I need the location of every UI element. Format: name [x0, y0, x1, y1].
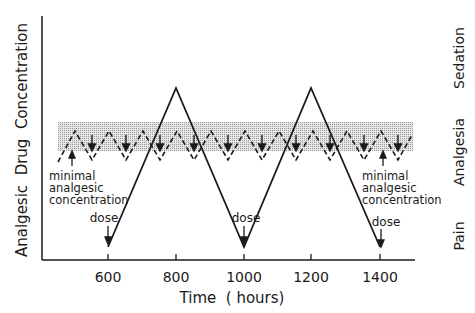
mac-label-left-3: concentration	[49, 193, 129, 207]
chart: 600 800 1000 1200 1400 Time ( hours) Ana…	[0, 0, 475, 313]
dose-arrows	[105, 226, 384, 247]
y-axis-title: Analgesic Drug Concentration	[13, 23, 31, 257]
tick-label-1200: 1200	[293, 269, 329, 285]
tick-label-600: 600	[95, 269, 122, 285]
dose-label-600: dose	[90, 211, 119, 225]
dose-label-1000: dose	[232, 211, 261, 225]
zone-sedation: Sedation	[451, 27, 467, 89]
zone-pain: Pain	[451, 221, 467, 250]
x-axis-title: Time ( hours)	[179, 289, 285, 307]
x-ticks	[108, 254, 380, 260]
mac-label-right-3: concentration	[362, 193, 442, 207]
tick-label-800: 800	[163, 269, 190, 285]
tick-label-1000: 1000	[226, 269, 262, 285]
zone-analgesia: Analgesia	[451, 118, 467, 186]
dose-label-1400: dose	[372, 215, 401, 229]
tick-label-1400: 1400	[362, 269, 398, 285]
